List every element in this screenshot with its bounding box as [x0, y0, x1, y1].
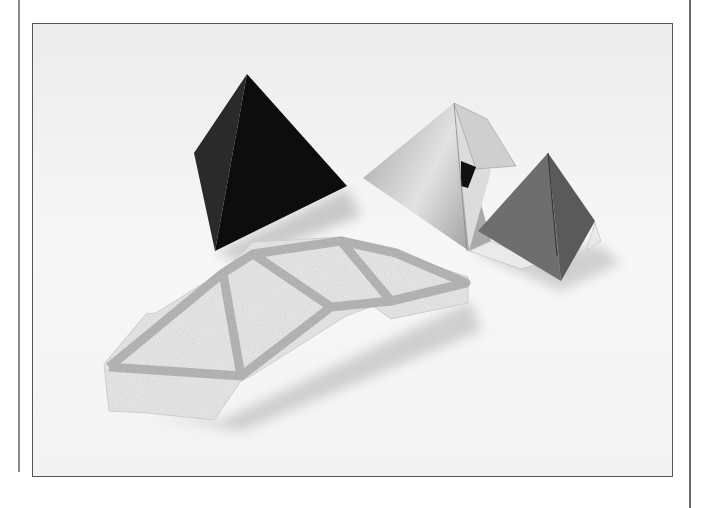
- page-rule-right: [689, 0, 691, 508]
- page-rule-left: [18, 0, 20, 472]
- photo-illustration: [33, 24, 673, 477]
- photo-figure: [32, 23, 673, 477]
